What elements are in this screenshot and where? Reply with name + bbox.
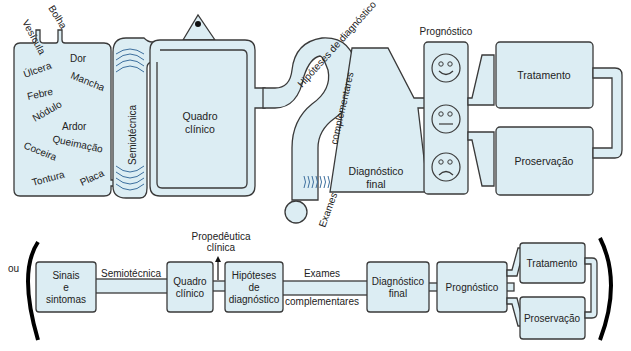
proservacao-label: Proservação xyxy=(515,155,574,167)
semiotecnica-pipe xyxy=(92,279,170,293)
outcome-tanks: Tratamento Proservação xyxy=(468,42,622,195)
prognostico-box: Prognóstico xyxy=(437,262,507,312)
input-bolha: Bolha xyxy=(46,3,69,31)
svg-text:Tratamento: Tratamento xyxy=(527,258,578,269)
proservacao-bottom-box: Proservação xyxy=(520,297,585,339)
sinais-box: Sinaisesintomas xyxy=(36,262,96,312)
diagnosis-flow-diagram: Vesícula Bolha Dor Úlcera Mancha Febre N… xyxy=(0,0,631,351)
ou-label: ou xyxy=(8,263,19,274)
eye-icon xyxy=(195,21,201,27)
prognostico-column: Prognóstico xyxy=(420,26,473,194)
semiotecnica-label: Semiotécnica xyxy=(127,105,138,165)
hipoteses-box: Hipótesesdediagnóstico xyxy=(225,262,283,312)
diagnostico-box: Diagnósticofinal xyxy=(367,262,429,312)
tratamento-label: Tratamento xyxy=(517,69,570,81)
symptom-dor: Dor xyxy=(70,53,87,64)
quadro-clinico-container: Quadroclínico xyxy=(150,15,265,196)
prognostico-title: Prognóstico xyxy=(420,26,473,37)
svg-text:Quadroclínico: Quadroclínico xyxy=(173,276,207,299)
quadro-label: Quadroclínico xyxy=(182,110,217,135)
symptoms-container: Vesícula Bolha Dor Úlcera Mancha Febre N… xyxy=(14,3,114,196)
svg-text:Prognóstico: Prognóstico xyxy=(446,282,499,293)
tratamento-bottom-box: Tratamento xyxy=(520,243,585,283)
svg-text:Proservação: Proservação xyxy=(524,313,581,324)
up-arrow-icon xyxy=(215,256,221,262)
right-parenthesis xyxy=(600,238,611,340)
semiotecnica-bottom-label: Semiotécnica xyxy=(101,268,161,279)
complementares-bottom-label: complementares xyxy=(285,296,359,307)
question-dot xyxy=(285,201,307,223)
symptom-ardor: Ardor xyxy=(62,121,87,132)
quadro-box: Quadroclínico xyxy=(167,262,213,312)
exames-bottom-label: Exames xyxy=(304,268,340,279)
svg-text:Propedêuticaclínica: Propedêuticaclínica xyxy=(192,231,251,253)
funnel-triangle xyxy=(183,15,215,40)
exames-label: Exames xyxy=(317,191,340,229)
